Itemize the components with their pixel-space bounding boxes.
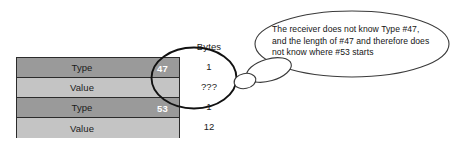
row-label: Value	[70, 123, 94, 134]
tlv-table: Type 47 Value Type 53 Value	[16, 57, 180, 138]
table-row: Type 47	[17, 58, 179, 78]
row-label: Type	[72, 62, 93, 73]
bytes-value: ???	[186, 77, 232, 97]
row-type-number: 47	[157, 62, 168, 73]
table-row: Value	[17, 118, 179, 138]
bytes-value: 12	[186, 117, 232, 137]
row-label: Type	[72, 102, 93, 113]
bytes-column: Bytes 1 ??? 1 12	[186, 36, 232, 137]
bubble-line: The receiver does not know Type #47,	[272, 24, 438, 36]
bytes-value: 1	[186, 57, 232, 77]
row-label: Value	[70, 82, 94, 93]
row-type-number: 53	[157, 102, 168, 113]
diagram-canvas: Type 47 Value Type 53 Value Bytes 1 ??? …	[0, 0, 453, 155]
thought-bubble-text: The receiver does not know Type #47, and…	[272, 24, 438, 59]
bubble-line: and the length of #47 and therefore does	[272, 36, 438, 48]
bytes-value: 1	[186, 97, 232, 117]
table-row: Type 53	[17, 98, 179, 118]
bytes-column-header: Bytes	[186, 36, 232, 57]
bubble-line: not know where #53 starts	[272, 47, 438, 59]
table-row: Value	[17, 78, 179, 98]
